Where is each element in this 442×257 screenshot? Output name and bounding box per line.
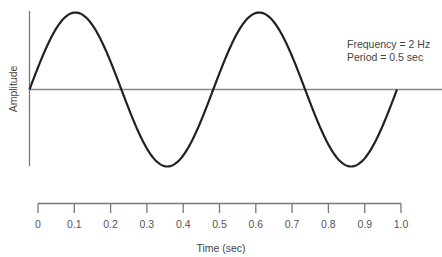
time-axis-tick-label: 0.6	[248, 218, 263, 230]
time-axis-tick-label: 0.3	[140, 218, 155, 230]
time-axis-tick-label: 0.2	[103, 218, 118, 230]
time-axis-tick-label: 0.5	[212, 218, 227, 230]
time-axis-tick-label: 0.4	[176, 218, 191, 230]
time-axis-tick-label: 0.9	[357, 218, 372, 230]
time-axis-tick-label: 0.1	[67, 218, 82, 230]
time-axis-tick-label: 0.7	[285, 218, 300, 230]
y-axis-label: Amplitude	[7, 66, 19, 113]
chart-canvas: Amplitude Frequency = 2 Hz Period = 0.5 …	[0, 0, 442, 257]
time-axis: 00.10.20.30.40.50.60.70.80.91.0	[35, 204, 408, 231]
time-axis-tick-label: 0.8	[321, 218, 336, 230]
annotation-period: Period = 0.5 sec	[347, 51, 423, 63]
annotation-frequency: Frequency = 2 Hz	[347, 38, 430, 50]
time-axis-tick-label: 0	[35, 218, 41, 230]
time-axis-tick-label: 1.0	[394, 218, 409, 230]
x-axis-label: Time (sec)	[196, 242, 245, 254]
